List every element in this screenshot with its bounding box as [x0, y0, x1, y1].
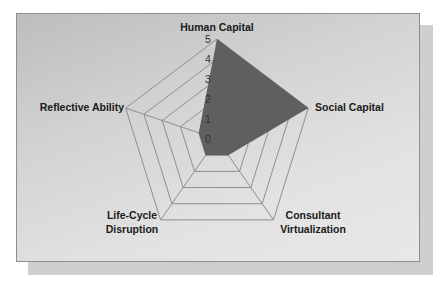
category-label-consultant-virtualization: Consultant [286, 209, 341, 221]
category-label-life-cycle-disruption: Life-Cycle [107, 209, 157, 221]
tick-label: 5 [205, 33, 211, 45]
data-series-polygon [199, 39, 309, 155]
tick-label: 1 [205, 113, 211, 125]
radar-chart: 0 1 2 3 4 5 Human Capital Social Capital… [0, 0, 448, 290]
tick-label: 3 [205, 73, 211, 85]
category-label-social-capital: Social Capital [315, 101, 384, 113]
category-label-human-capital: Human Capital [180, 21, 254, 33]
category-label-life-cycle-disruption: Disruption [106, 223, 159, 235]
tick-label: 4 [205, 53, 211, 65]
tick-label: 0 [205, 133, 211, 145]
tick-label: 2 [205, 93, 211, 105]
category-label-consultant-virtualization: Virtualization [280, 223, 346, 235]
category-label-reflective-ability: Reflective Ability [40, 101, 124, 113]
